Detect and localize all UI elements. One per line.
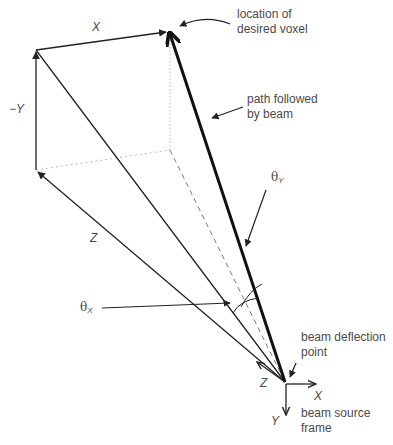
voxel-annotation-line2: desired voxel	[237, 22, 308, 37]
source-frame-line2: frame	[301, 421, 370, 436]
frame-y-label: Y	[271, 414, 279, 429]
theta-x-pointer	[102, 303, 230, 308]
theta-y-subscript: Y	[278, 176, 283, 185]
voxel-annotation: location of desired voxel	[237, 7, 308, 37]
theta-y-pointer	[246, 190, 266, 246]
theta-x-label: θX	[80, 300, 93, 318]
source-frame-annotation: beam source frame	[301, 406, 370, 436]
z-label: Z	[90, 231, 97, 246]
bottom-dotted-line	[36, 150, 170, 170]
neg-y-label: −Y	[9, 102, 24, 117]
deflection-annotation-line2: point	[301, 345, 386, 360]
path-annotation-line1: path followed	[247, 92, 318, 107]
deflection-annotation-line1: beam deflection	[301, 330, 386, 345]
path-annotation-line2: by beam	[247, 107, 318, 122]
deflection-callout-arrow	[290, 363, 296, 377]
voxel-annotation-line1: location of	[237, 7, 308, 22]
x-vector	[36, 32, 166, 50]
deflection-annotation: beam deflection point	[301, 330, 386, 360]
frame-z-label: Z	[260, 376, 267, 391]
theta-x-subscript: X	[87, 306, 92, 315]
beam-geometry-diagram	[0, 0, 393, 445]
beam-path-vector	[170, 34, 285, 382]
frame-x-label: X	[314, 389, 322, 404]
z-vector	[38, 172, 285, 382]
theta-y-label: θY	[271, 170, 284, 188]
theta-x-arc	[233, 298, 259, 313]
voxel-callout-arrow	[180, 19, 230, 26]
path-annotation: path followed by beam	[247, 92, 318, 122]
projection-dashed-line	[170, 150, 285, 382]
path-callout-arrow	[212, 107, 243, 118]
source-frame-line1: beam source	[301, 406, 370, 421]
x-label: X	[92, 20, 100, 35]
